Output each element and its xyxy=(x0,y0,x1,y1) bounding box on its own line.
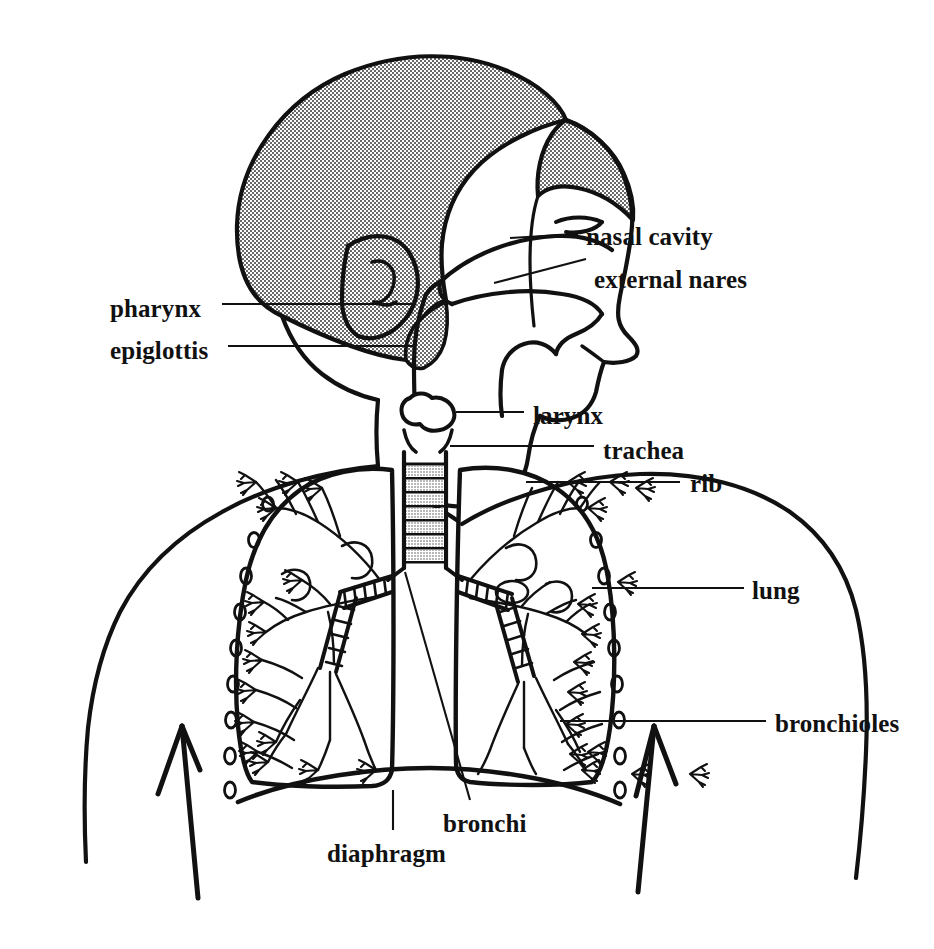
label-bronchioles: bronchioles xyxy=(775,711,899,736)
diagram-canvas: nasal cavity external nares pharynx epig… xyxy=(0,0,934,949)
label-external-nares: external nares xyxy=(594,267,747,292)
respiratory-system-illustration xyxy=(0,0,934,949)
left-arrow xyxy=(158,726,200,898)
label-larynx: larynx xyxy=(533,403,603,428)
label-diaphragm: diaphragm xyxy=(327,841,446,866)
label-epiglottis: epiglottis xyxy=(110,338,208,363)
larynx xyxy=(401,394,454,453)
leader-external-nares xyxy=(494,259,586,283)
right-arrow xyxy=(636,726,676,892)
label-pharynx: pharynx xyxy=(110,296,201,321)
trachea-rings xyxy=(404,452,446,568)
label-trachea: trachea xyxy=(603,438,684,463)
label-rib: rib xyxy=(690,471,722,496)
oral-cavity-and-tongue xyxy=(452,291,602,416)
hair xyxy=(237,56,633,368)
label-lung: lung xyxy=(752,578,800,603)
label-bronchi: bronchi xyxy=(443,811,527,836)
label-nasal-cavity: nasal cavity xyxy=(586,224,713,249)
nose-and-nares xyxy=(582,346,604,362)
